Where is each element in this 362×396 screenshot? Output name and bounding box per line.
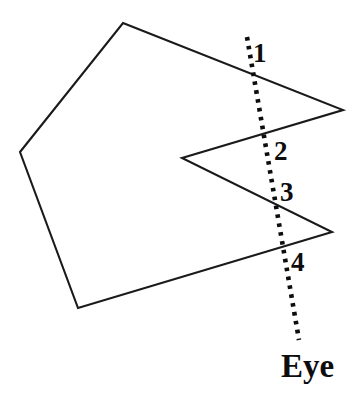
eye-label: Eye: [281, 348, 334, 384]
figure-canvas: 1 2 3 4 Eye: [0, 0, 362, 396]
intersection-label-3: 3: [280, 177, 294, 207]
intersection-label-1: 1: [253, 38, 267, 68]
background-rect: [0, 0, 362, 396]
intersection-label-4: 4: [291, 247, 305, 277]
ray-casting-diagram: 1 2 3 4 Eye: [0, 0, 362, 396]
intersection-label-2: 2: [274, 136, 288, 166]
